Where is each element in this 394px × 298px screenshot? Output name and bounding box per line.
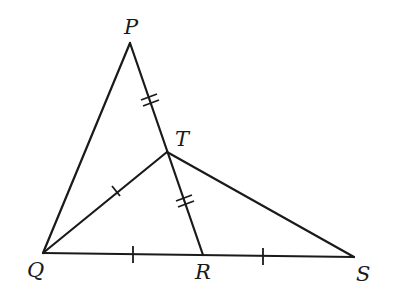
segment-qs [43,253,354,257]
label-r: R [194,260,211,284]
segment-pr [130,43,203,255]
segment-qt [43,152,167,253]
segment-ts [167,152,354,257]
label-p: P [123,15,139,39]
segment-pq [43,43,130,253]
label-s: S [356,262,370,286]
geometry-diagram: P T Q R S [0,0,394,298]
label-q: Q [27,258,44,282]
label-t: T [175,127,191,151]
